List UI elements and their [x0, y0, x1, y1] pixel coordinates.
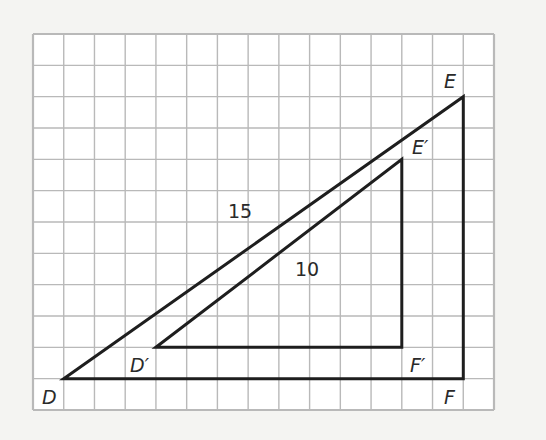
vertex-label-e-prime: E′ [412, 136, 429, 158]
side-length-de-prime: 10 [295, 258, 319, 280]
vertex-label-e: E [444, 70, 456, 92]
vertex-label-d: D [42, 386, 57, 408]
side-length-de: 15 [228, 200, 252, 222]
vertex-label-f: F [444, 386, 456, 408]
vertex-label-d-prime: D′ [130, 354, 150, 376]
diagram-canvas: D E F D′ E′ F′ 15 10 [0, 0, 546, 440]
vertex-label-f-prime: F′ [410, 354, 426, 376]
